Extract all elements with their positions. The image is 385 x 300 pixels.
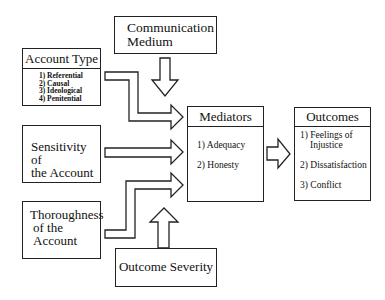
list-item: Injustice <box>300 140 370 150</box>
elbow-arrow-icon <box>105 173 183 238</box>
account-type-box: Account Type 1) Referential 2) Causal 3)… <box>22 48 101 106</box>
outcomes-box: Outcomes 1) Feelings of Injustice 2) Dis… <box>294 107 371 201</box>
thoroughness-label: Account <box>30 234 104 247</box>
communication-medium-label: Medium <box>127 35 214 49</box>
list-item: 1) Feelings of <box>300 130 370 140</box>
right-arrow-icon <box>267 139 290 168</box>
list-item: 2) Dissatisfaction <box>300 160 370 170</box>
communication-medium-label: Communication <box>127 21 214 35</box>
outcome-severity-box: Outcome Severity <box>115 248 217 287</box>
list-item: 1) Adequacy <box>197 135 263 155</box>
sensitivity-box: Sensitivity of the Account <box>22 125 101 183</box>
outcomes-title: Outcomes <box>295 108 370 127</box>
account-type-title: Account Type <box>23 49 100 69</box>
outcomes-list: 1) Feelings of Injustice 2) Dissatisfact… <box>295 127 370 190</box>
down-arrow-icon <box>152 58 178 96</box>
list-item: 2) Honesty <box>197 155 263 175</box>
mediators-title: Mediators <box>188 107 263 127</box>
up-arrow-icon <box>150 208 178 248</box>
mediators-box: Mediators 1) Adequacy 2) Honesty <box>187 106 264 202</box>
sensitivity-label: Sensitivity of <box>31 140 100 166</box>
list-item: 3) Conflict <box>300 180 370 190</box>
outcome-severity-label: Outcome Severity <box>116 260 216 274</box>
list-item: 4) Penitential <box>39 95 100 103</box>
thoroughness-box: Thoroughness of the Account <box>22 201 101 259</box>
mediators-list: 1) Adequacy 2) Honesty <box>188 127 263 175</box>
communication-medium-box: Communication Medium <box>114 16 217 54</box>
right-arrow-icon <box>105 140 183 164</box>
sensitivity-label: the Account <box>31 166 100 179</box>
account-type-list: 1) Referential 2) Causal 3) Ideological … <box>23 69 100 102</box>
